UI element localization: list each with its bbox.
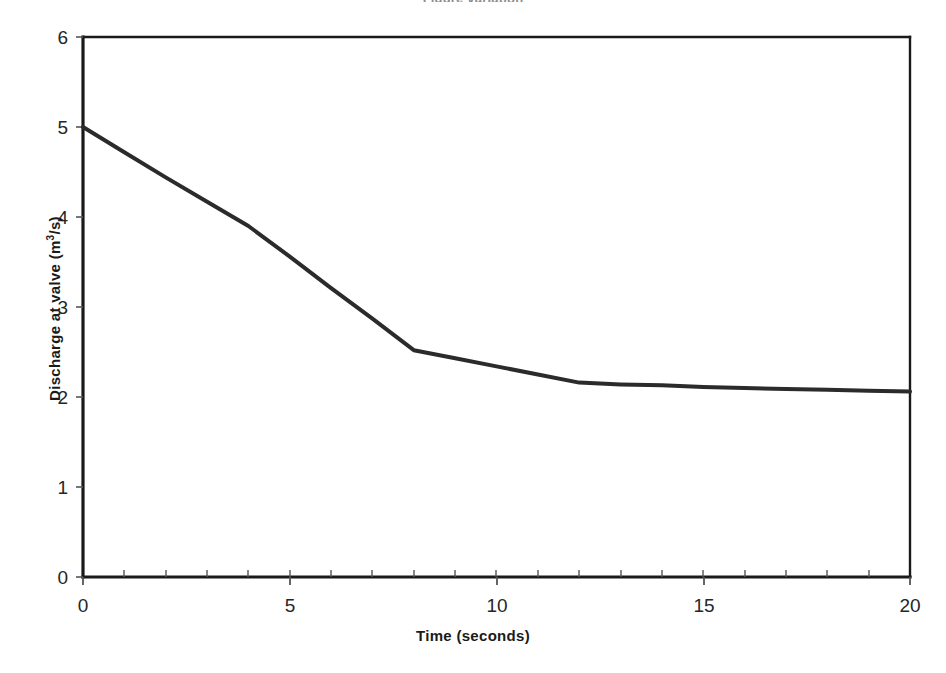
- xtick-label-15: 15: [684, 596, 724, 615]
- y-axis-title-superscript: 3: [45, 235, 56, 241]
- xtick-label-0: 0: [63, 596, 103, 615]
- y-axis-title-before: Discharge at valve (m: [46, 240, 63, 401]
- chart-figure: Figure variation: [0, 0, 946, 673]
- plot-frame: [83, 37, 910, 577]
- plot-canvas: [0, 0, 946, 673]
- y-axis-title: Discharge at valve (m3/s): [46, 49, 63, 569]
- x-axis-title: Time (seconds): [0, 627, 946, 644]
- ytick-label-6: 6: [38, 28, 68, 47]
- xtick-label-10: 10: [477, 596, 517, 615]
- xtick-label-20: 20: [890, 596, 930, 615]
- xtick-label-5: 5: [270, 596, 310, 615]
- y-axis-title-after: /s): [46, 216, 63, 234]
- ytick-label-0: 0: [38, 568, 68, 587]
- discharge-series-line: [83, 127, 910, 392]
